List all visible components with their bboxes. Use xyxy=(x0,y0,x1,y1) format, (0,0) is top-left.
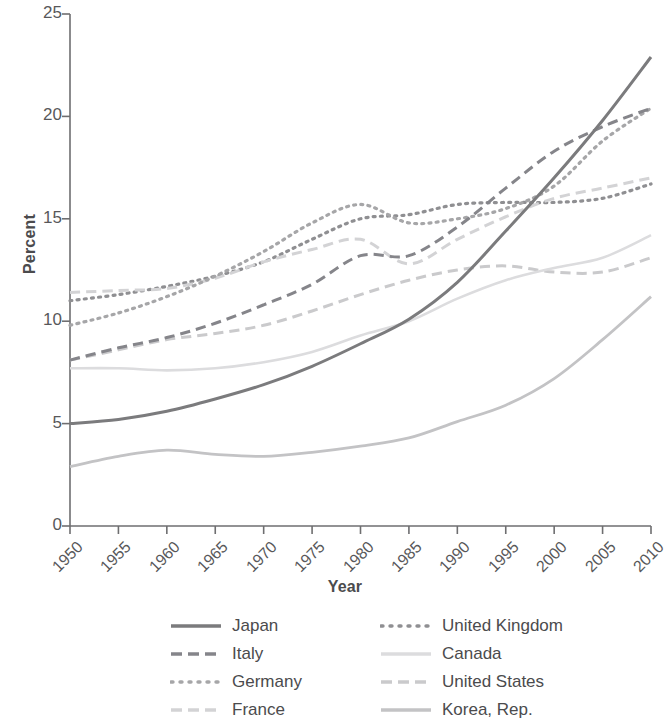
legend-label: Japan xyxy=(232,616,278,636)
x-tick-label: 1995 xyxy=(479,538,523,582)
legend-swatch-canada xyxy=(380,647,432,661)
legend-column-right: United KingdomCanadaUnited StatesKorea, … xyxy=(380,612,610,724)
legend-label: Germany xyxy=(232,672,302,692)
x-tick-label: 2010 xyxy=(624,538,668,582)
x-tick-label: 2005 xyxy=(575,538,619,582)
legend-label: Canada xyxy=(442,644,502,664)
legend-swatch-italy xyxy=(170,647,222,661)
legend-item-germany[interactable]: Germany xyxy=(170,668,400,696)
legend-item-united-states[interactable]: United States xyxy=(380,668,610,696)
legend-swatch-germany xyxy=(170,675,222,689)
x-tick-label: 1975 xyxy=(285,538,329,582)
x-tick-label: 1985 xyxy=(382,538,426,582)
legend-swatch-japan xyxy=(170,619,222,633)
x-axis-title: Year xyxy=(285,578,405,596)
legend-item-france[interactable]: France xyxy=(170,696,400,724)
x-axis-tick-labels: 1950195519601965197019751980198519901995… xyxy=(0,0,659,600)
x-tick-label: 1990 xyxy=(430,538,474,582)
legend-label: Korea, Rep. xyxy=(442,700,533,720)
y-axis-title: Percent xyxy=(21,184,39,304)
x-tick-label: 1960 xyxy=(140,538,184,582)
legend-column-left: JapanItalyGermanyFrance xyxy=(170,612,400,724)
x-tick-label: 1955 xyxy=(91,538,135,582)
legend-swatch-united-kingdom xyxy=(380,619,432,633)
legend-swatch-korea-rep xyxy=(380,703,432,717)
legend-item-japan[interactable]: Japan xyxy=(170,612,400,640)
x-tick-label: 1950 xyxy=(43,538,87,582)
legend-swatch-france xyxy=(170,703,222,717)
legend-label: United States xyxy=(442,672,544,692)
legend-label: United Kingdom xyxy=(442,616,563,636)
legend-label: Italy xyxy=(232,644,263,664)
chart-legend: JapanItalyGermanyFrance United KingdomCa… xyxy=(170,612,650,724)
legend-swatch-united-states xyxy=(380,675,432,689)
x-tick-label: 2000 xyxy=(527,538,571,582)
legend-item-italy[interactable]: Italy xyxy=(170,640,400,668)
x-tick-label: 1970 xyxy=(237,538,281,582)
legend-item-korea-rep[interactable]: Korea, Rep. xyxy=(380,696,610,724)
legend-item-united-kingdom[interactable]: United Kingdom xyxy=(380,612,610,640)
legend-label: France xyxy=(232,700,285,720)
legend-item-canada[interactable]: Canada xyxy=(380,640,610,668)
x-tick-label: 1965 xyxy=(188,538,232,582)
x-tick-label: 1980 xyxy=(333,538,377,582)
